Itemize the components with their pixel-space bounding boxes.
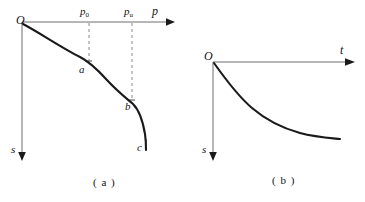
panel-b-y-axis-label: s <box>202 144 206 155</box>
panel-a-point-label-a: a <box>79 64 85 75</box>
panel-a-graphics <box>18 18 175 161</box>
panel-a-x-axis-label: p <box>152 5 158 17</box>
panel-b-x-axis-arrowhead <box>345 58 355 66</box>
panel-a-settlement-curve <box>23 24 146 150</box>
panel-a-x-axis-arrowhead <box>166 18 175 26</box>
panel-a-point-label-b: b <box>125 101 131 112</box>
panel-a-point-label-c: c <box>137 142 142 153</box>
panel-b-settlement-curve <box>214 63 340 139</box>
panel-a-tick-label-p0: p0 <box>80 6 89 19</box>
panel-a-tick-label-pu: pu <box>124 6 133 19</box>
figure-root: O p0 pu p s a b c ( a ) O t s ( b ) <box>0 0 365 202</box>
panel-a-caption: ( a ) <box>93 176 116 188</box>
panel-a-origin-label: O <box>16 14 25 26</box>
panel-a-tick-pu-subscript: u <box>130 11 134 19</box>
panel-b-graphics <box>209 58 355 161</box>
panel-a-y-axis-label: s <box>11 144 15 155</box>
figure-canvas <box>0 0 365 202</box>
panel-b-x-axis-label: t <box>340 44 343 56</box>
panel-a-y-axis-arrowhead <box>18 152 26 161</box>
panel-b-y-axis-arrowhead <box>209 152 217 161</box>
panel-a-tick-p0-subscript: 0 <box>86 11 90 19</box>
panel-b-origin-label: O <box>204 50 213 62</box>
panel-b-caption: ( b ) <box>272 174 295 186</box>
